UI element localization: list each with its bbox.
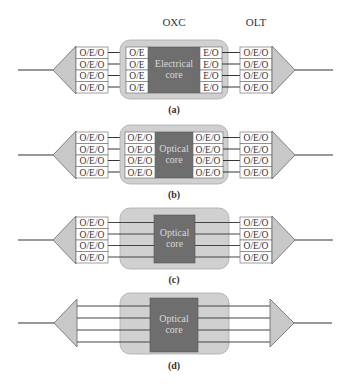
left-splitter-triangle [54,299,77,347]
left-olt-stack: O/E/O O/E/O O/E/O O/E/O [76,47,108,93]
port-label: O/E/O [196,145,221,155]
left-olt-label: O/E/O [80,253,105,263]
right-olt-stack: O/E/O O/E/O O/E/O O/E/O [240,47,272,93]
port-label: O/E/O [128,133,153,143]
right-olt-label: O/E/O [244,241,269,251]
panel-b: O/E/O O/E/O O/E/O O/E/O Optical core O/E… [18,125,333,201]
oxc-architectures-diagram: OXC OLT O/E/O O/E/O O/E/O O/E/O Electric… [0,0,350,388]
right-olt-label: O/E/O [244,48,269,58]
right-olt-stack: O/E/O O/E/O O/E/O O/E/O [240,132,272,178]
left-port-stack: O/E O/E O/E O/E [126,47,148,93]
panel-caption: (d) [168,360,180,372]
panel-caption: (a) [168,104,180,116]
panel-caption: (b) [168,189,180,201]
left-olt-label: O/E/O [80,83,105,93]
left-olt-label: O/E/O [80,145,105,155]
right-olt-label: O/E/O [244,60,269,70]
port-label: E/O [203,83,218,93]
core-label: Electrical [155,58,194,69]
core-label: Optical [159,143,189,154]
port-label: O/E [129,48,145,58]
port-label: O/E/O [128,156,153,166]
left-olt-label: O/E/O [80,133,105,143]
port-label: E/O [203,71,218,81]
panel-d: Optical core (d) [18,293,332,372]
core-label: Optical [159,313,189,324]
left-olt-label: O/E/O [80,156,105,166]
port-label: O/E/O [196,168,221,178]
right-port-stack: E/O E/O E/O E/O [200,47,222,93]
right-olt-label: O/E/O [244,230,269,240]
right-olt-stack: O/E/O O/E/O O/E/O O/E/O [240,217,272,263]
core-label: core [165,324,183,335]
left-port-stack: O/E/O O/E/O O/E/O O/E/O [125,132,155,178]
port-label: O/E [129,60,145,70]
port-label: O/E/O [196,133,221,143]
left-olt-label: O/E/O [80,48,105,58]
right-olt-label: O/E/O [244,83,269,93]
oxc-header-label: OXC [162,16,185,28]
olt-header-label: OLT [246,16,267,28]
right-olt-label: O/E/O [244,218,269,228]
panel-c: O/E/O O/E/O O/E/O O/E/O Optical core O/E… [18,208,333,286]
port-label: E/O [203,60,218,70]
core-label: core [166,238,184,249]
panel-caption: (c) [168,274,179,286]
core-label: Optical [160,227,190,238]
left-splitter-triangle [53,46,76,94]
right-splitter-triangle [272,216,295,264]
left-splitter-triangle [53,131,76,179]
right-olt-label: O/E/O [244,145,269,155]
left-olt-label: O/E/O [80,168,105,178]
right-splitter-triangle [270,299,294,347]
left-olt-label: O/E/O [80,60,105,70]
port-label: O/E/O [196,156,221,166]
right-olt-label: O/E/O [244,71,269,81]
right-splitter-triangle [272,46,295,94]
right-olt-label: O/E/O [244,156,269,166]
core-label: core [165,154,183,165]
right-olt-label: O/E/O [244,133,269,143]
left-olt-label: O/E/O [80,218,105,228]
port-label: O/E [129,71,145,81]
left-splitter-triangle [53,216,76,264]
port-label: O/E/O [128,145,153,155]
right-olt-label: O/E/O [244,168,269,178]
right-port-stack: O/E/O O/E/O O/E/O O/E/O [193,132,223,178]
left-olt-label: O/E/O [80,230,105,240]
panel-a: O/E/O O/E/O O/E/O O/E/O Electrical core … [18,40,333,116]
core-label: core [165,69,183,80]
left-olt-label: O/E/O [80,71,105,81]
port-label: O/E [129,83,145,93]
left-olt-stack: O/E/O O/E/O O/E/O O/E/O [76,217,108,263]
right-splitter-triangle [272,131,295,179]
port-label: E/O [203,48,218,58]
port-label: O/E/O [128,168,153,178]
left-olt-label: O/E/O [80,241,105,251]
left-olt-stack: O/E/O O/E/O O/E/O O/E/O [76,132,108,178]
right-olt-label: O/E/O [244,253,269,263]
